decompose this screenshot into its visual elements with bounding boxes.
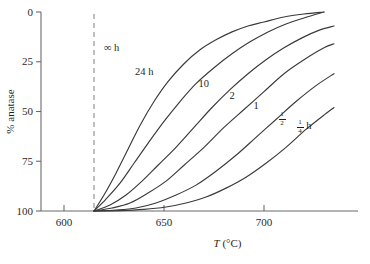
x-axis-ticks: 600650700 [56,205,273,228]
x-axis-tick-label: 600 [56,216,73,228]
x-axis-tick-label: 700 [256,216,273,228]
anatase-conversion-chart: 0255075100 600650700 T (°C)% anatase [0,0,370,264]
y-axis-title: % anatase [4,89,16,133]
curve-label-24-h: 24 h [135,66,153,77]
y-axis-tick-label: 75 [22,155,34,167]
x-axis-tick-label: 650 [156,216,173,228]
curve-label-1-4-h: 14 h [297,119,312,135]
x-axis-title: T (°C) [214,237,242,250]
curve-series [94,12,334,211]
curve-label-1-2-h: 12 [279,111,286,127]
asymptote-label: ∞ h [104,42,119,53]
curve-label-2-h: 2 [230,90,235,101]
curve-1-2-h [94,74,334,211]
y-axis-tick-label: 25 [22,55,34,67]
y-axis-tick-label: 0 [28,6,34,18]
axes [41,12,358,211]
curve-label-1-h: 1 [254,100,259,111]
y-axis-ticks: 0255075100 [17,6,42,217]
y-axis-tick-label: 50 [22,105,34,117]
y-axis-tick-label: 100 [17,205,34,217]
curve-label-10-h: 10 [199,78,210,89]
